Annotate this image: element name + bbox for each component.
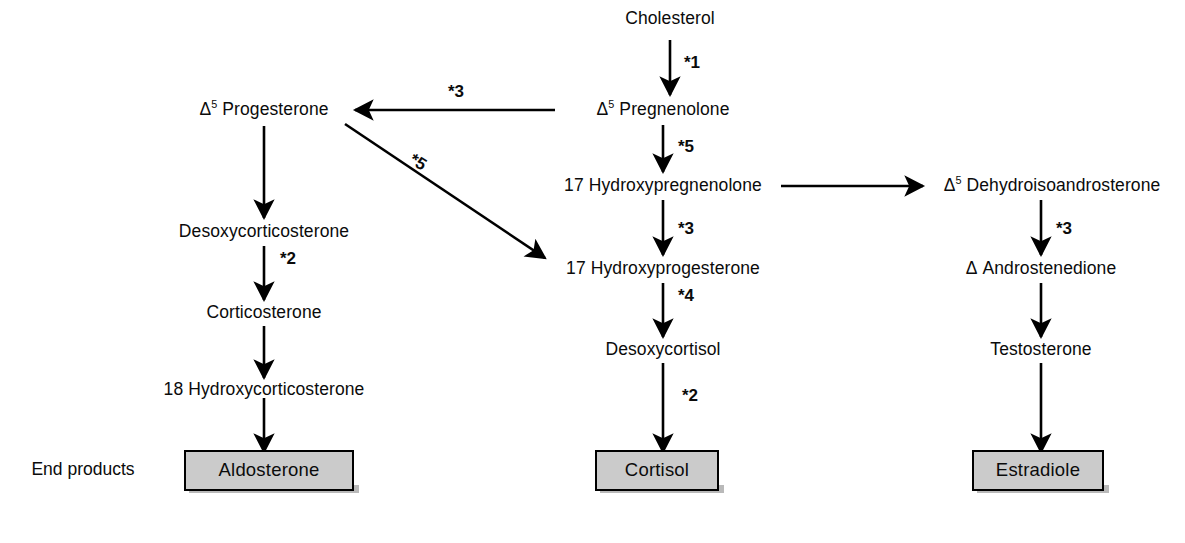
node-testosterone: Testosterone [990,341,1091,359]
node-pregnenolone-prefix: Δ [596,99,608,119]
node-hydroxypregnenolone: 17 Hydroxypregnenolone [564,177,762,195]
node-dehydroisoandrosterone-label: Dehydroisoandrosterone [962,175,1161,195]
node-hydroxyprogesterone: 17 Hydroxyprogesterone [566,260,760,278]
end-product-box-cortisol[interactable]: Cortisol [595,450,719,491]
node-cholesterol-label: Cholesterol [625,8,715,28]
node-corticosterone-label: Corticosterone [206,302,321,322]
node-dehydroisoandrosterone-prefix: Δ [944,175,956,195]
node-androstenedione-prefix: Δ [966,258,978,278]
enzyme-label-dcortisol-to-cortisol: *2 [682,387,698,404]
end-product-box-estradiole[interactable]: Estradiole [972,450,1104,491]
node-progesterone: Δ5 Progesterone [199,101,328,119]
node-hydroxycorticosterone-label: 18 Hydroxycorticosterone [164,379,365,399]
node-progesterone-label: Progesterone [217,99,328,119]
enzyme-label-preg-to-17oh-preg: *5 [678,138,694,155]
node-progesterone-prefix: Δ [199,99,211,119]
node-corticosterone: Corticosterone [206,304,321,322]
end-product-label-estradiole: Estradiole [996,459,1080,481]
node-cholesterol: Cholesterol [625,10,715,28]
node-androstenedione: Δ Androstenedione [966,260,1117,278]
node-dehydroisoandrosterone: Δ5 Dehydroisoandrosterone [944,177,1161,195]
node-hydroxypregnenolone-label: 17 Hydroxypregnenolone [564,175,762,195]
node-desoxycortisol: Desoxycortisol [605,341,720,359]
node-desoxycortisol-label: Desoxycortisol [605,339,720,359]
node-hydroxycorticosterone: 18 Hydroxycorticosterone [164,381,365,399]
node-desoxycorticosterone-label: Desoxycorticosterone [179,221,349,241]
node-pregnenolone-label: Pregnenolone [614,99,729,119]
enzyme-label-preg-to-prog: *3 [448,83,464,100]
node-testosterone-label: Testosterone [990,339,1091,359]
node-hydroxyprogesterone-label: 17 Hydroxyprogesterone [566,258,760,278]
arrow-progesterone-to-hydroxyprogesterone [345,124,545,258]
enzyme-label-dcs-to-cs: *2 [280,250,296,267]
enzyme-label-chol-to-preg: *1 [684,54,700,71]
enzyme-label-prog-to-17oh-prog: *5 [407,151,430,174]
end-product-label-cortisol: Cortisol [625,459,689,481]
enzyme-label-dhea-to-andro: *3 [1056,220,1072,237]
enzyme-label-17ohprog-to-dcortisol: *4 [678,287,694,304]
end-product-box-aldosterone[interactable]: Aldosterone [184,450,354,491]
node-desoxycorticosterone: Desoxycorticosterone [179,223,349,241]
enzyme-label-17ohpreg-to-17ohprog: *3 [678,220,694,237]
node-androstenedione-label: Androstenedione [978,258,1117,278]
end-products-label: End products [31,461,134,479]
end-product-label-aldosterone: Aldosterone [219,459,320,481]
node-pregnenolone: Δ5 Pregnenolone [596,101,729,119]
pathway-diagram: Cholesterol Δ5 Pregnenolone Δ5 Progester… [0,0,1185,543]
